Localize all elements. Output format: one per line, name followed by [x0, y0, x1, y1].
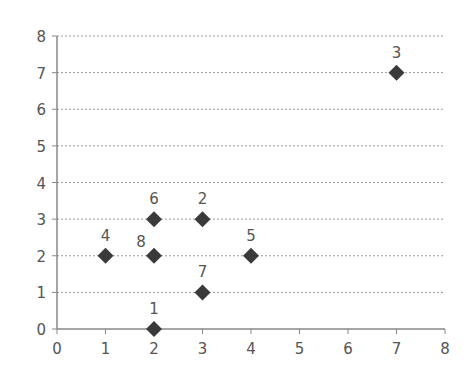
x-tick-label: 7	[392, 340, 402, 358]
y-tick-label: 3	[36, 211, 46, 229]
point-label: 7	[198, 263, 208, 281]
data-point: 1	[146, 300, 162, 337]
diamond-marker-icon	[146, 211, 162, 227]
data-point: 3	[389, 44, 405, 81]
y-tick-label: 6	[36, 101, 46, 119]
diamond-marker-icon	[243, 248, 259, 264]
diamond-marker-icon	[146, 321, 162, 337]
y-tick-label: 7	[36, 65, 46, 83]
scatter-chart: 012345678 012345678 12345678	[0, 0, 474, 384]
y-tick-label: 0	[36, 321, 46, 339]
y-tick-label: 8	[36, 28, 46, 46]
point-label: 5	[246, 227, 256, 245]
x-axis-ticks: 012345678	[52, 329, 450, 358]
data-point: 2	[195, 190, 211, 227]
point-label: 2	[198, 190, 208, 208]
point-label: 8	[136, 233, 146, 251]
data-point: 4	[98, 227, 114, 264]
diamond-marker-icon	[195, 284, 211, 300]
y-tick-label: 2	[36, 248, 46, 266]
diamond-marker-icon	[389, 65, 405, 81]
x-tick-label: 0	[52, 340, 62, 358]
x-tick-label: 2	[149, 340, 159, 358]
diamond-marker-icon	[195, 211, 211, 227]
x-tick-label: 4	[246, 340, 256, 358]
y-tick-label: 1	[36, 284, 46, 302]
diamond-marker-icon	[146, 248, 162, 264]
y-tick-label: 5	[36, 138, 46, 156]
x-tick-label: 3	[198, 340, 208, 358]
point-label: 4	[101, 227, 111, 245]
data-point: 7	[195, 263, 211, 300]
x-tick-label: 1	[101, 340, 111, 358]
x-tick-label: 5	[295, 340, 305, 358]
point-label: 6	[149, 190, 159, 208]
point-label: 3	[392, 44, 402, 62]
data-points: 12345678	[98, 44, 405, 337]
point-label: 1	[149, 300, 159, 318]
x-tick-label: 8	[440, 340, 450, 358]
data-point: 5	[243, 227, 259, 264]
data-point: 6	[146, 190, 162, 227]
data-point: 8	[136, 233, 162, 264]
x-tick-label: 6	[343, 340, 353, 358]
y-axis-ticks: 012345678	[36, 28, 57, 339]
y-tick-label: 4	[36, 175, 46, 193]
diamond-marker-icon	[98, 248, 114, 264]
